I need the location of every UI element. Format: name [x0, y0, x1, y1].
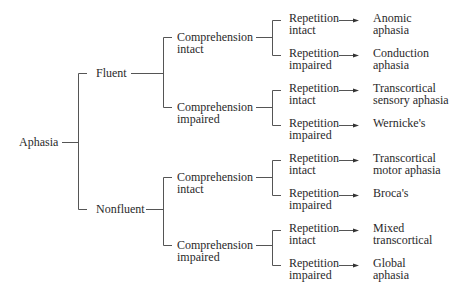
node-label-line2: impaired — [289, 59, 332, 71]
aphasia-classification-tree: Aphasia Fluent Nonfluent Comprehension i… — [0, 0, 461, 290]
outcome-label-line2: transcortical — [373, 234, 432, 246]
node-label-line2: impaired — [177, 251, 220, 263]
outcome-label-line2: aphasia — [373, 269, 409, 281]
node-fluent: Fluent — [96, 67, 127, 79]
outcome-label-line2: aphasia — [373, 24, 409, 36]
outcome-label-line1: Wernicke's — [373, 117, 426, 129]
node-label-line2: impaired — [289, 269, 332, 281]
root-node-aphasia: Aphasia — [19, 136, 58, 148]
node-label-line2: impaired — [289, 129, 332, 141]
outcome-label-line1: Broca's — [373, 187, 408, 199]
node-label-line2: intact — [289, 24, 316, 36]
node-label-line2: impaired — [177, 113, 220, 125]
arrowheads — [353, 19, 359, 268]
outcome-label-line2: sensory aphasia — [373, 94, 449, 106]
outcome-label-line2: aphasia — [373, 59, 409, 71]
node-label-line2: intact — [289, 94, 316, 106]
outcome-label-line2: motor aphasia — [373, 164, 441, 176]
node-nonfluent: Nonfluent — [96, 203, 145, 215]
node-label-line2: intact — [289, 234, 316, 246]
node-label-line2: intact — [177, 43, 204, 55]
node-label-line2: intact — [177, 183, 204, 195]
node-label-line2: intact — [289, 164, 316, 176]
node-label-line2: impaired — [289, 199, 332, 211]
